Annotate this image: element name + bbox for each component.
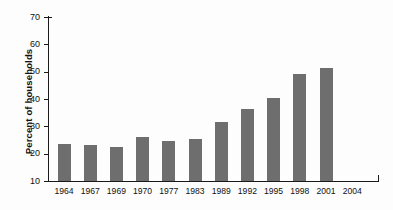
- y-tick-mark: [44, 99, 49, 100]
- y-tick-mark: [44, 17, 49, 18]
- y-tick-label: 50: [14, 67, 40, 76]
- bar: [189, 139, 202, 181]
- x-axis-line: [48, 181, 379, 182]
- bar: [320, 68, 333, 181]
- bar: [267, 98, 280, 181]
- bar: [293, 74, 306, 181]
- y-tick-label: 40: [14, 95, 40, 104]
- bar: [136, 137, 149, 181]
- bar: [58, 144, 71, 181]
- y-tick-mark: [44, 72, 49, 73]
- y-tick-mark: [44, 154, 49, 155]
- y-tick-mark: [44, 44, 49, 45]
- y-tick-label: 70: [14, 13, 40, 22]
- bar-chart: Percent of households 10203040506070 196…: [0, 0, 393, 210]
- bar: [241, 109, 254, 181]
- bar: [162, 141, 175, 181]
- bar: [215, 122, 228, 181]
- x-tick-label: 2004: [337, 186, 367, 196]
- y-tick-label: 30: [14, 122, 40, 131]
- y-tick-mark: [44, 181, 49, 182]
- y-tick-label: 20: [14, 149, 40, 158]
- bar: [110, 147, 123, 181]
- x-axis-end-tick: [378, 175, 379, 182]
- y-tick-mark: [44, 126, 49, 127]
- y-tick-label: 10: [14, 177, 40, 186]
- bar: [84, 145, 97, 181]
- y-tick-label: 60: [14, 40, 40, 49]
